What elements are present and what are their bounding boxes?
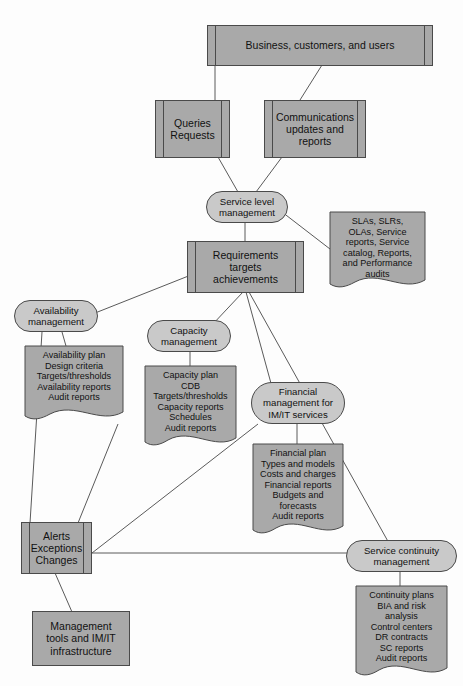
node-requirements[interactable]: Requirements targets achievements <box>187 241 304 293</box>
node-financial-management-label: Financial management for IM/IT services <box>263 386 333 419</box>
node-capacity-outputs[interactable]: Capacity plan CDB Targets/thresholds Cap… <box>144 365 237 451</box>
node-business-label: Business, customers, and users <box>246 39 395 51</box>
node-financial-management[interactable]: Financial management for IM/IT services <box>251 382 345 424</box>
node-management-tools-label: Management tools and IM/IT infrastructur… <box>46 620 115 657</box>
edge-communications-slm <box>256 157 282 192</box>
node-requirements-label: Requirements targets achievements <box>213 249 278 286</box>
node-business[interactable]: Business, customers, and users <box>207 25 433 66</box>
connector-lines <box>0 0 463 686</box>
node-availability-outputs-label: Availability plan Design criteria Target… <box>37 350 111 403</box>
edge-requirements-financial <box>246 292 272 387</box>
node-communications[interactable]: Communications updates and reports <box>264 100 366 158</box>
node-availability-outputs[interactable]: Availability plan Design criteria Target… <box>24 345 124 424</box>
node-financial-outputs[interactable]: Financial plan Types and models Costs an… <box>252 443 344 539</box>
edge-requirements-availability <box>85 273 196 317</box>
node-alerts[interactable]: Alerts Exceptions Changes <box>21 522 92 574</box>
node-service-continuity-management-label: Service continuity management <box>364 545 439 567</box>
node-management-tools[interactable]: Management tools and IM/IT infrastructur… <box>32 611 130 666</box>
node-communications-label: Communications updates and reports <box>276 111 354 148</box>
node-capacity-management[interactable]: Capacity management <box>147 320 231 352</box>
edge-availability-outputs <box>62 332 66 346</box>
edge-queries-slm <box>218 157 238 192</box>
node-queries[interactable]: Queries Requests <box>155 100 230 158</box>
node-capacity-outputs-label: Capacity plan CDB Targets/thresholds Cap… <box>153 370 227 433</box>
edge-alerts-mgmttools <box>55 573 72 612</box>
node-service-continuity-management[interactable]: Service continuity management <box>346 540 457 572</box>
node-service-level-management-label: Service level management <box>219 196 275 218</box>
node-availability-management-label: Availability management <box>28 305 84 327</box>
node-slm-outputs[interactable]: SLAs, SLRs, OLAs, Service reports, Servi… <box>329 211 426 292</box>
node-slm-outputs-label: SLAs, SLRs, OLAs, Service reports, Servi… <box>343 216 413 279</box>
node-alerts-label: Alerts Exceptions Changes <box>31 530 82 567</box>
node-financial-outputs-label: Financial plan Types and models Costs an… <box>260 448 336 522</box>
edge-capacity-alerts <box>78 424 118 523</box>
node-availability-management[interactable]: Availability management <box>14 300 98 332</box>
node-continuity-outputs-label: Continuity plans BIA and risk analysis C… <box>369 590 434 664</box>
node-capacity-management-label: Capacity management <box>161 325 217 347</box>
diagram-canvas: Business, customers, and users Queries R… <box>0 0 463 686</box>
node-service-level-management[interactable]: Service level management <box>206 191 288 223</box>
node-continuity-outputs[interactable]: Continuity plans BIA and risk analysis C… <box>355 585 448 681</box>
edge-business-communications <box>300 65 322 100</box>
node-queries-label: Queries Requests <box>170 117 214 141</box>
